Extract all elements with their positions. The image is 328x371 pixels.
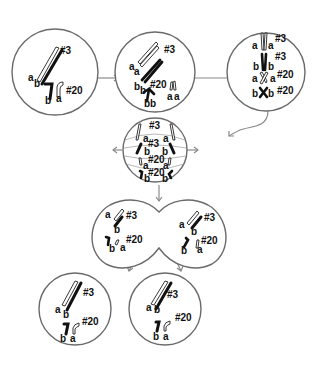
cell-prophase: #3 a a b b #20 b b a a [115,32,195,112]
label-allele-a: a [163,133,169,144]
cell-metaphase: #3 #3 a a b b #20 a a #20 b b [227,33,305,111]
cell-membrane [92,200,226,268]
arrow-anaphase-left-pole [113,147,122,153]
label-chr20: #20 [66,85,83,96]
label-allele-a: a [105,209,111,220]
arrow-anaphase-right-pole [186,147,198,153]
label-allele-b: b [268,88,274,99]
label-allele-a: a [134,66,140,77]
label-allele-a: a [270,73,276,84]
label-allele-b: b [60,333,66,344]
label-chr3: #3 [275,33,287,44]
label-allele-b: b [114,224,120,235]
label-allele-a: a [167,91,173,102]
label-allele-a: a [179,219,185,230]
label-allele-b: b [144,173,150,184]
label-chr3: #3 [204,212,216,223]
mitosis-diagram: #3 a b #20 b a #3 a a b b #20 [0,0,328,371]
label-allele-b: b [109,243,115,254]
arrow-anaphase-to-telophase [156,185,162,201]
label-chr3: #3 [164,44,176,55]
label-chr3: #3 [126,210,138,221]
daughter-cell-left: #3 a b #20 b a [39,273,111,345]
arrow-metaphase-to-anaphase [229,111,268,136]
label-chr20: #20 [175,312,192,323]
label-allele-b: b [34,78,40,89]
label-chr20: #20 [277,69,294,80]
label-allele-b: b [162,173,168,184]
cell-anaphase: #3 a a #3 b b #20 a a #20 b b [123,118,187,184]
label-allele-a: a [120,242,126,253]
label-chr20: #20 [277,85,294,96]
chromosome-20-dark-left [140,171,142,178]
label-allele-b: b [154,304,160,315]
label-allele-b: b [63,309,69,320]
label-allele-a: a [56,93,62,104]
cell-telophase: #3 a b #20 b a #3 a b #20 b a [92,200,226,268]
label-allele-b: b [45,95,51,106]
label-chr20: #20 [126,234,143,245]
label-chr3: #3 [167,289,179,300]
label-chr3: #3 [149,120,161,131]
label-allele-a: a [163,331,169,342]
label-allele-b: b [253,61,259,72]
label-chr3: #3 [83,287,95,298]
label-allele-b: b [252,88,258,99]
cell-membrane [12,29,98,115]
label-allele-a: a [174,91,180,102]
label-chr3: #3 [275,51,287,62]
label-allele-a: a [70,333,76,344]
label-chr20: #20 [82,316,99,327]
label-allele-a: a [55,304,61,315]
label-chr20: #20 [150,79,167,90]
label-allele-b: b [191,226,197,237]
cell-interphase: #3 a b #20 b a [12,29,98,115]
label-allele-b: b [150,98,156,109]
label-allele-b: b [153,331,159,342]
label-allele-a: a [252,40,258,51]
label-chr3: #3 [60,45,72,56]
label-allele-a: a [146,302,152,313]
label-allele-b: b [181,245,187,256]
daughter-cell-right: #3 a b #20 b a [129,273,201,345]
label-allele-b: b [268,61,274,72]
chromosome-20-light-left [139,158,142,165]
label-allele-a: a [197,244,203,255]
label-allele-a: a [252,73,258,84]
label-allele-a: a [268,40,274,51]
label-chr20: #20 [201,235,218,246]
